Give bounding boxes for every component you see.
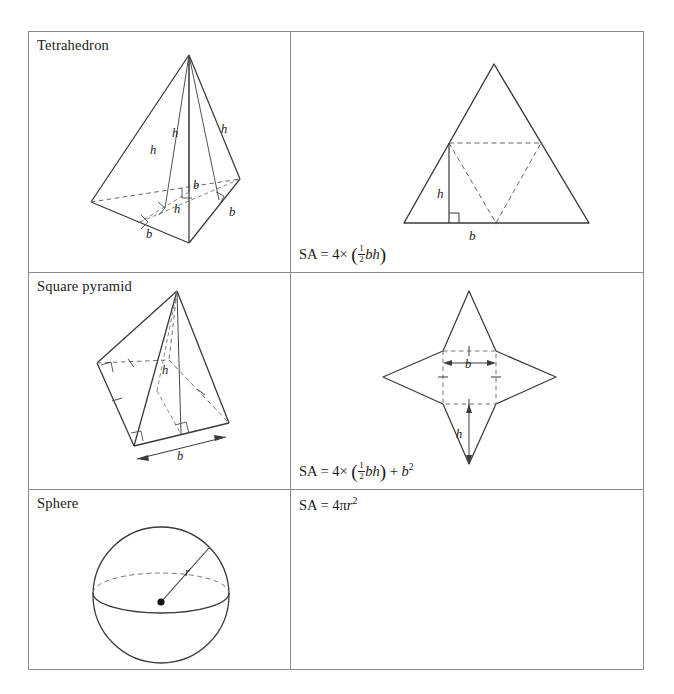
sphere-r-label: r: [185, 565, 190, 579]
net-b-label: b: [469, 228, 476, 243]
formula-pi: π: [339, 497, 346, 513]
formula-radius-exp: 2: [352, 495, 357, 506]
tetrahedron-3d-figure: h h h b h b b: [29, 32, 290, 272]
square-pyramid-solid-cell: Square pyramid: [29, 273, 291, 489]
tetrahedron-h-label-right: h: [221, 122, 227, 136]
formula-b-squared-exp: 2: [409, 461, 414, 472]
formula-open-paren: (: [351, 461, 357, 482]
tetrahedron-b-label-left: b: [146, 227, 152, 241]
formula-vars: bh: [365, 246, 380, 262]
solids-reference-table: Tetrahedron: [28, 31, 644, 670]
square-pyramid-b-label: b: [177, 449, 183, 463]
formula-equals: =: [320, 246, 328, 262]
formula-equals: =: [320, 497, 328, 513]
formula-sa: SA: [299, 246, 317, 262]
tetrahedron-h-label-mid: h: [172, 126, 178, 140]
square-pyramid-net-cell: b h SA = 4× (12bh) + b2: [291, 273, 644, 489]
net-b-label-pyramid: b: [465, 357, 471, 371]
square-pyramid-h-label: h: [162, 363, 168, 377]
formula-plus: +: [390, 463, 398, 479]
tetrahedron-net-figure: h b: [291, 32, 644, 272]
tetrahedron-net-cell: h b SA = 4× (12bh): [291, 32, 644, 272]
sphere-surface-area-formula: SA = 4πr2: [299, 495, 357, 514]
formula-one-half: 12: [358, 244, 365, 264]
tetrahedron-surface-area-formula: SA = 4× (12bh): [299, 244, 386, 266]
formula-close-paren: ): [380, 461, 386, 482]
formula-vars: bh: [365, 463, 380, 479]
tetrahedron-h-label-left: h: [150, 143, 156, 157]
tetrahedron-solid-cell: Tetrahedron: [29, 32, 291, 272]
table-row-sphere: Sphere r: [29, 490, 643, 670]
table-row-tetrahedron: Tetrahedron: [29, 32, 643, 273]
formula-open-paren: (: [351, 244, 357, 265]
formula-equals: =: [320, 463, 328, 479]
sphere-solid-cell: Sphere r: [29, 490, 291, 670]
formula-sa: SA: [299, 463, 317, 479]
sphere-3d-figure: r: [29, 490, 290, 670]
net-h-label: h: [437, 186, 444, 201]
formula-times: ×: [339, 463, 347, 479]
formula-close-paren: ): [380, 244, 386, 265]
tetrahedron-b-label-right: b: [229, 205, 235, 219]
square-pyramid-3d-figure: h b: [29, 273, 290, 489]
formula-one-half: 12: [358, 461, 365, 481]
sphere-formula-cell: SA = 4πr2: [291, 490, 644, 670]
formula-times: ×: [339, 246, 347, 262]
table-row-square-pyramid: Square pyramid: [29, 273, 643, 490]
tetrahedron-b-label-top: b: [193, 178, 199, 192]
formula-sa: SA: [299, 497, 317, 513]
formula-b-squared-base: b: [401, 463, 408, 479]
net-h-label-pyramid: h: [456, 427, 462, 441]
square-pyramid-surface-area-formula: SA = 4× (12bh) + b2: [299, 461, 414, 483]
tetrahedron-h-label-base: h: [174, 202, 180, 216]
square-pyramid-net-figure: b h: [291, 273, 644, 489]
